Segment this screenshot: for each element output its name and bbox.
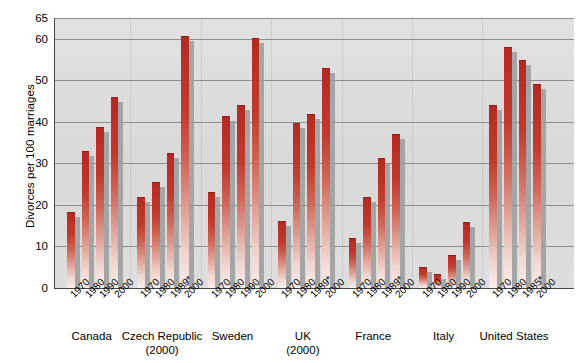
country-label: United States xyxy=(480,330,549,342)
country-name: Italy xyxy=(433,330,454,342)
country-label: Sweden xyxy=(212,330,254,342)
x-axis-tick-labels: 1970198019902000197019801989*20001970198… xyxy=(0,0,586,363)
country-label: Czech Republic(2000) xyxy=(122,330,203,356)
country-label: France xyxy=(355,330,391,342)
country-name: Canada xyxy=(71,330,111,342)
country-note: (2000) xyxy=(286,344,319,356)
country-name: Czech Republic xyxy=(122,330,203,342)
country-name: Sweden xyxy=(212,330,254,342)
bar-chart: Divorces per 100 marriages 0102030405060… xyxy=(0,0,586,363)
country-note: (2000) xyxy=(122,344,203,356)
country-label: Italy xyxy=(433,330,454,342)
country-label: Canada xyxy=(71,330,111,342)
country-name: France xyxy=(355,330,391,342)
country-label: UK(2000) xyxy=(286,330,319,356)
country-name: UK xyxy=(295,330,311,342)
country-name: United States xyxy=(480,330,549,342)
